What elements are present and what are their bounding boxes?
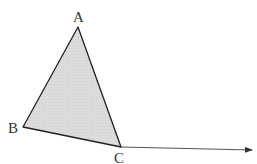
- geometry-diagram: A B C: [0, 0, 257, 164]
- ray-from-c: [121, 147, 252, 150]
- vertex-label-c: C: [114, 150, 124, 164]
- triangle-abc: [23, 27, 121, 147]
- vertex-label-b: B: [8, 120, 18, 136]
- vertex-label-a: A: [73, 9, 84, 25]
